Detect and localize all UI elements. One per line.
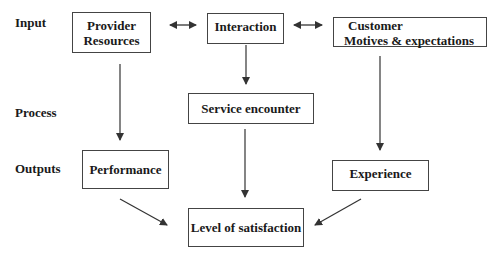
node-customer-line1: Customer <box>344 18 486 33</box>
node-service-encounter: Service encounter <box>188 93 314 124</box>
node-performance-label: Performance <box>89 162 161 177</box>
node-provider-resources: Provider Resources <box>72 12 151 53</box>
arrow-experience-satisfaction <box>315 199 361 225</box>
node-service-encounter-label: Service encounter <box>201 101 300 116</box>
node-experience: Experience <box>332 160 429 191</box>
arrow-performance-satisfaction <box>120 199 167 225</box>
node-customer-line2: Motives & expectations <box>344 33 486 48</box>
node-customer: Customer Motives & expectations <box>333 17 487 47</box>
node-performance: Performance <box>82 150 169 189</box>
node-experience-label: Experience <box>349 166 411 181</box>
row-label-outputs: Outputs <box>15 161 61 177</box>
node-provider-resources-line2: Resources <box>83 33 139 48</box>
node-interaction: Interaction <box>207 13 284 44</box>
node-level-of-satisfaction-label: Level of satisfaction <box>191 220 301 235</box>
node-level-of-satisfaction: Level of satisfaction <box>188 208 304 247</box>
node-interaction-label: Interaction <box>214 19 276 34</box>
row-label-process: Process <box>15 105 57 121</box>
row-label-input: Input <box>15 15 46 31</box>
node-provider-resources-line1: Provider <box>87 18 136 33</box>
